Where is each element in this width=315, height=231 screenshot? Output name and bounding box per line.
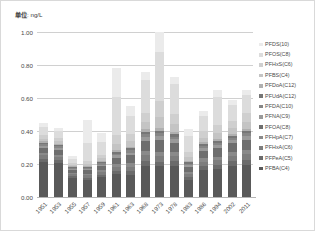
bar-column[interactable] [68,32,77,197]
legend-item[interactable]: PFHxS(C6) [259,62,315,69]
bar-segment [170,84,179,114]
x-axis-tick: 1963 [126,197,135,231]
legend-item[interactable]: PFDA(C10) [259,103,315,110]
bar-column[interactable] [83,32,92,197]
bar-stack [39,123,48,197]
bar-column[interactable] [97,32,106,197]
legend-item-label: PFHxA(C6) [265,145,293,150]
bar-column[interactable] [228,32,237,197]
x-axis-tick: 2011 [242,197,251,231]
bar-stack [68,156,77,197]
bar-segment [112,144,121,151]
bar-column[interactable] [184,32,193,197]
legend-swatch [259,74,263,78]
bar-segment [170,166,179,197]
legend-item[interactable]: PFOS(C8) [259,51,315,58]
legend-item[interactable]: PFBA(C4) [259,165,315,172]
legend-swatch [259,43,263,47]
bar-segment [141,113,150,123]
x-axis-tick-label: 1961 [107,201,121,215]
x-axis-tick: 2002 [228,197,237,231]
bar-segment [126,175,135,197]
bar-segment [97,142,106,154]
x-axis-tick-label: 1953 [49,201,63,215]
x-axis-tick: 1986 [199,197,208,231]
bar-segment [155,32,164,51]
y-axis: 0.000.200.400.600.801.00 [1,1,37,231]
bar-segment [155,117,164,129]
legend-swatch [259,136,263,140]
y-axis-tick-label: 0.20 [21,161,33,168]
legend-item[interactable]: PFPeA(C5) [259,155,315,162]
bar-segment [155,52,164,102]
bar-segment [126,106,135,116]
stacked-bar-chart: 单位: ng/L 0.000.200.400.600.801.00 195119… [0,0,315,231]
bar-segment [199,170,208,197]
x-axis-tick-label: 1994 [208,201,222,215]
x-axis-tick-label: 1986 [194,201,208,215]
bar-column[interactable] [126,32,135,197]
bar-segment [155,101,164,117]
bar-column[interactable] [155,32,164,197]
bar-segment [170,143,179,153]
legend-swatch [259,156,263,160]
bar-segment [184,180,193,197]
bar-segment [126,134,135,141]
legend-item[interactable]: PFDS(10) [259,41,315,48]
bar-segment [112,97,121,135]
bar-segment [141,80,150,112]
legend-item[interactable]: PFUdA(C12) [259,93,315,100]
y-axis-tick-label: 0.40 [21,128,33,135]
bar-segment [54,131,63,138]
bar-segment [112,68,121,96]
x-axis-tick-label: 1963 [121,201,135,215]
bar-segment [39,127,48,135]
bar-column[interactable] [54,32,63,197]
bar-segment [213,148,222,156]
bar-segment [199,116,208,131]
legend-swatch [259,53,263,57]
bar-segment [242,113,251,122]
bar-column[interactable] [39,32,48,197]
legend-item-label: PFHpA(C7) [265,135,293,140]
x-axis-tick-label: 1955 [63,201,77,215]
bar-segment [39,162,48,197]
x-axis-tick: 1953 [54,197,63,231]
legend-item[interactable]: PFBS(C4) [259,72,315,79]
legend-item[interactable]: PFHxA(C6) [259,144,315,151]
x-axis-tick-label: 1957 [78,201,92,215]
legend-item-label: PFHxS(C6) [265,62,293,67]
legend-item[interactable]: PFDoA(C12) [259,82,315,89]
x-axis-tick-label: 2011 [237,201,250,214]
legend-item[interactable]: PFNA(C9) [259,113,315,120]
x-axis-tick-label: 1973 [150,201,164,215]
bar-column[interactable] [170,32,179,197]
bar-segment [126,155,135,163]
bar-column[interactable] [199,32,208,197]
x-axis-labels: 1951195319551957195919611963196819731978… [37,197,253,231]
bar-group [37,32,253,197]
bar-segment [184,136,193,153]
x-axis-tick: 1955 [68,197,77,231]
bar-column[interactable] [112,32,121,197]
x-axis-tick-label: 2002 [223,201,237,215]
bar-segment [213,125,222,133]
bar-segment [97,177,106,197]
bar-stack [83,120,92,197]
bar-column[interactable] [242,32,251,197]
bar-segment [83,180,92,197]
bar-segment [242,95,251,113]
bar-segment [141,122,150,129]
legend-item[interactable]: PFHpA(C7) [259,134,315,141]
bar-segment [170,77,179,85]
bar-segment [141,166,150,197]
legend-item-label: PFBS(C4) [265,73,290,78]
legend-item[interactable]: PFOA(C8) [259,124,315,131]
bar-segment [155,166,164,197]
bar-segment [68,178,77,197]
legend-item-label: PFDA(C10) [265,104,293,109]
x-axis-tick: 1994 [213,197,222,231]
bar-column[interactable] [213,32,222,197]
bar-stack [126,106,135,197]
bar-column[interactable] [141,32,150,197]
